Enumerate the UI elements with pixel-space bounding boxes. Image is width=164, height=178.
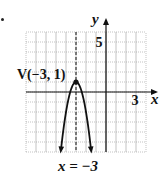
y-axis-label: y: [90, 11, 99, 27]
x-tick-label: 3: [132, 93, 139, 108]
vertex-point: [73, 79, 78, 84]
parabola-graph: x y 3 5 V(−3, 1) x = −3: [0, 0, 164, 178]
x-axis-label: x: [150, 91, 159, 107]
vertex-label: V(−3, 1): [17, 67, 66, 83]
y-tick-label: 5: [96, 35, 103, 50]
axis-of-symmetry-label: x = −3: [57, 158, 99, 174]
